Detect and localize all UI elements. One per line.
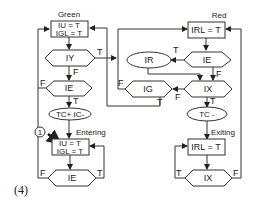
svg-text:IGL = T: IGL = T <box>56 29 83 38</box>
svg-text:T: T <box>157 97 163 107</box>
action-tc-minus: TC - <box>187 107 227 121</box>
svg-text:1: 1 <box>38 128 43 137</box>
svg-text:IE: IE <box>65 83 74 93</box>
decision-ix: IX <box>184 81 232 97</box>
state-red-title: Red <box>212 11 227 20</box>
svg-text:IE: IE <box>203 55 212 65</box>
decision-ix-exiting: IX <box>185 170 232 186</box>
svg-text:F: F <box>175 92 181 102</box>
svg-text:T: T <box>97 168 103 178</box>
svg-text:IRL = T: IRL = T <box>191 142 221 152</box>
svg-text:F: F <box>216 69 222 79</box>
state-entering: Entering IU = T IGL = T <box>52 128 106 156</box>
flowchart: T F F T F T T F F F T T T F Green IU = T… <box>0 0 257 204</box>
svg-text:IG: IG <box>143 84 153 94</box>
state-exiting: Exiting IRL = T <box>188 128 235 155</box>
svg-text:TC+ IC-: TC+ IC- <box>56 110 85 119</box>
svg-text:TC -: TC - <box>199 110 215 119</box>
svg-text:T: T <box>97 47 103 57</box>
marker-1: 1 <box>35 127 45 137</box>
svg-text:F: F <box>40 78 46 88</box>
state-red: Red IRL = T <box>188 11 226 38</box>
svg-text:IR: IR <box>145 55 155 65</box>
svg-text:T: T <box>176 168 182 178</box>
decision-ig: IG <box>125 81 172 97</box>
svg-text:F: F <box>40 168 46 178</box>
state-exiting-title: Exiting <box>211 128 235 137</box>
decision-ie-entering: IE <box>48 170 96 186</box>
svg-text:IGL = T: IGL = T <box>57 147 84 156</box>
svg-text:IY: IY <box>66 53 75 63</box>
state-green-title: Green <box>58 10 80 19</box>
state-green: Green IU = T IGL = T <box>51 10 88 38</box>
svg-text:IX: IX <box>204 173 213 183</box>
svg-text:T: T <box>73 96 79 106</box>
svg-text:IE: IE <box>68 173 77 183</box>
action-ir: IR <box>127 52 171 68</box>
decision-ie-green: IE <box>46 81 92 96</box>
action-tc-plus-ic-minus: TC+ IC- <box>49 108 91 120</box>
svg-text:F: F <box>118 78 124 88</box>
decision-iy: IY <box>45 50 95 66</box>
svg-text:IRL = T: IRL = T <box>191 25 221 35</box>
svg-text:IX: IX <box>204 84 213 94</box>
decision-ie-red: IE <box>184 52 231 67</box>
figure-label: (4) <box>14 183 28 197</box>
svg-text:T: T <box>173 45 179 55</box>
svg-text:F: F <box>233 168 239 178</box>
state-entering-title: Entering <box>76 128 106 137</box>
svg-text:F: F <box>73 67 79 77</box>
